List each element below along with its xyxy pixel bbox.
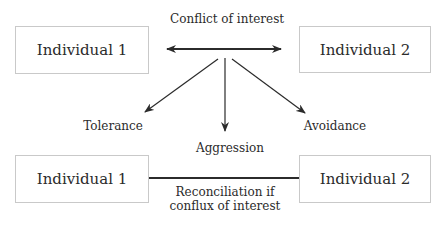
bottom-individual-2-box: Individual 2 xyxy=(299,155,431,203)
top-individual-2-label: Individual 2 xyxy=(320,41,411,59)
reconciliation-label-line2: conflux of interest xyxy=(160,200,290,213)
avoidance-label: Avoidance xyxy=(300,120,370,133)
avoidance-arrow xyxy=(232,59,305,113)
bottom-individual-1-label: Individual 1 xyxy=(37,170,128,188)
top-individual-2-box: Individual 2 xyxy=(299,26,431,73)
tolerance-arrow xyxy=(145,59,218,112)
top-individual-1-label: Individual 1 xyxy=(37,41,128,59)
reconciliation-label-line1: Reconciliation if xyxy=(165,186,285,199)
top-individual-1-box: Individual 1 xyxy=(15,26,149,74)
tolerance-label: Tolerance xyxy=(78,120,148,133)
aggression-label: Aggression xyxy=(190,142,270,155)
bottom-individual-1-box: Individual 1 xyxy=(15,155,149,203)
conflict-of-interest-label: Conflict of interest xyxy=(170,13,280,26)
bottom-individual-2-label: Individual 2 xyxy=(320,170,411,188)
